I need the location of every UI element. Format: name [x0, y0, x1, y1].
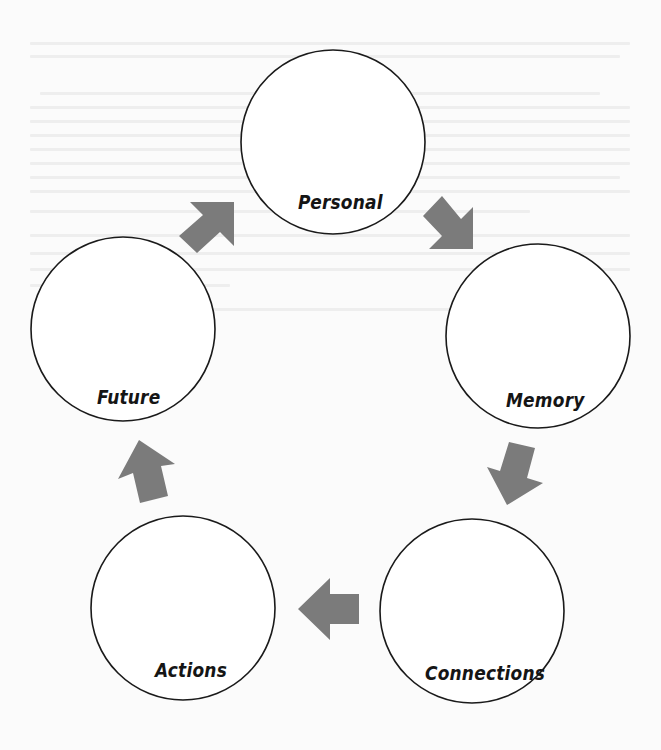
- arrow-left-icon: [298, 578, 359, 640]
- node-label-personal: Personal: [298, 191, 383, 214]
- arrow-up-icon: [118, 440, 175, 503]
- cycle-diagram: Personal Memory Connections Actions Futu…: [0, 0, 661, 750]
- node-label-connections: Connections: [425, 662, 545, 685]
- node-label-memory: Memory: [506, 389, 585, 412]
- node-label-future: Future: [97, 386, 160, 409]
- arrow-up-right-icon: [179, 202, 234, 253]
- arrow-down-icon: [487, 442, 543, 505]
- node-label-actions: Actions: [155, 659, 227, 682]
- arrow-down-right-icon: [423, 196, 473, 249]
- diagram-canvas: [0, 0, 661, 750]
